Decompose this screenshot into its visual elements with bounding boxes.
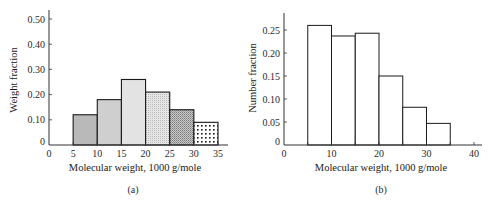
bar-30-35 — [194, 122, 218, 145]
chart-b-canvas: 01020304000.050.100.150.200.25 Molecular… — [248, 0, 496, 205]
x-tick-label: 10 — [92, 148, 102, 159]
bar-20-25 — [379, 76, 403, 145]
bars — [308, 25, 451, 145]
y-tick-label: 0.40 — [28, 39, 46, 50]
y-tick-label: 0.50 — [28, 14, 46, 25]
bar-5-10 — [308, 25, 332, 145]
x-tick-label: 0 — [47, 148, 52, 159]
x-tick-label: 20 — [374, 148, 384, 159]
bar-25-30 — [403, 107, 427, 145]
y-tick-label: 0.30 — [28, 64, 46, 75]
y-tick-label: 0.20 — [28, 89, 46, 100]
y-axis-title: Weight fraction — [8, 47, 19, 113]
x-tick-label: 15 — [116, 148, 126, 159]
x-tick-label: 25 — [165, 148, 175, 159]
y-axis-title: Number fraction — [248, 42, 258, 112]
y-tick-label: 0.25 — [263, 25, 281, 36]
x-tick-label: 10 — [327, 148, 337, 159]
bar-15-20 — [121, 79, 145, 145]
number-fraction-chart: 01020304000.050.100.150.200.25 Molecular… — [248, 0, 496, 205]
x-tick-label: 35 — [213, 148, 223, 159]
y-tick-label: 0.20 — [263, 48, 281, 59]
y-tick-label: 0 — [40, 136, 45, 147]
y-tick-label: 0.05 — [263, 117, 281, 128]
y-tick-label: 0.10 — [263, 94, 281, 105]
bar-5-10 — [73, 115, 97, 145]
bar-25-30 — [170, 110, 194, 145]
x-tick-label: 30 — [189, 148, 199, 159]
chart-a-canvas: 0510152025303500.100.200.300.400.50 Mole… — [0, 0, 248, 205]
caption-b: (b) — [375, 184, 387, 196]
x-tick-label: 20 — [141, 148, 151, 159]
bar-10-15 — [332, 36, 356, 145]
bar-30-35 — [427, 123, 451, 145]
caption-a: (a) — [127, 184, 138, 196]
x-axis-title: Molecular weight, 1000 g/mole — [315, 162, 448, 173]
y-tick-label: 0.15 — [263, 71, 281, 82]
x-tick-label: 5 — [71, 148, 76, 159]
y-tick-label: 0 — [275, 136, 280, 147]
bars — [73, 79, 218, 145]
bar-15-20 — [355, 33, 379, 145]
x-tick-label: 0 — [282, 148, 287, 159]
weight-fraction-chart: 0510152025303500.100.200.300.400.50 Mole… — [0, 0, 248, 205]
bar-20-25 — [146, 92, 170, 145]
x-tick-label: 30 — [422, 148, 432, 159]
bar-10-15 — [97, 100, 121, 145]
x-axis-title: Molecular weight, 1000 g/mole — [69, 162, 202, 173]
y-tick-label: 0.10 — [28, 114, 46, 125]
x-tick-label: 40 — [469, 148, 479, 159]
